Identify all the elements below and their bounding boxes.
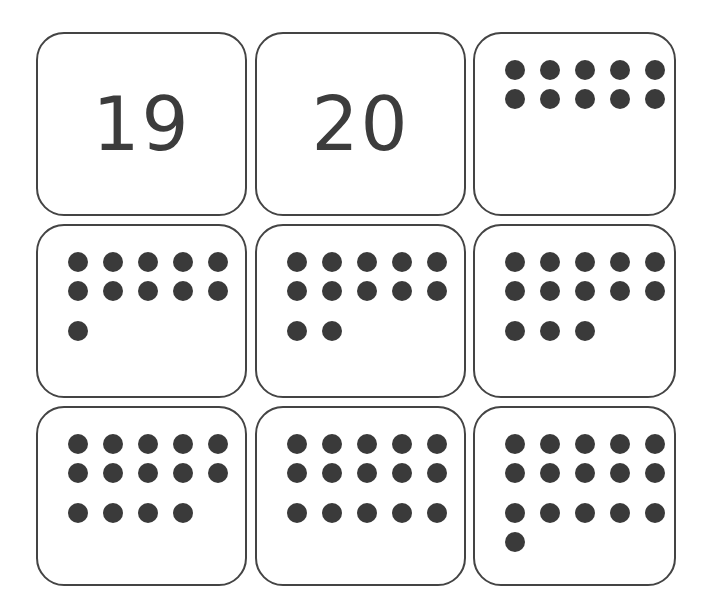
dot-row [505,281,664,301]
dot [392,281,412,301]
dot [173,281,193,301]
dot [103,463,123,483]
dot [138,281,158,301]
dot [103,434,123,454]
dot [287,463,307,483]
flashcard-dots-16[interactable] [473,406,676,586]
dot [540,281,560,301]
card-dot-array [287,252,454,350]
dot-row [505,89,664,109]
dot [540,463,560,483]
dot [287,434,307,454]
dot [575,60,595,80]
dot [287,281,307,301]
dot [208,434,228,454]
dot-row [287,434,454,454]
dot [68,503,88,523]
dot [322,503,342,523]
flashcard-dots-11[interactable] [36,224,247,398]
dot [173,434,193,454]
dot [287,321,307,341]
dot [540,60,560,80]
dot [427,463,447,483]
flashcard-dots-14[interactable] [36,406,247,586]
dot [357,463,377,483]
dot-row [68,434,235,454]
dot-row [68,281,235,301]
dot [540,252,560,272]
dot [575,252,595,272]
dot-row [287,281,454,301]
dot [645,503,665,523]
dot-row [68,321,235,341]
dot [103,503,123,523]
dot [103,252,123,272]
dot [287,503,307,523]
flashcard-dots-10[interactable] [473,32,676,216]
flashcard-19[interactable]: 19 [36,32,247,216]
card-dot-array [68,434,235,532]
dot [575,321,595,341]
dot [540,503,560,523]
dot [173,503,193,523]
dot [68,434,88,454]
flashcard-board: 19 20 [0,0,714,614]
card-dot-array [505,434,664,561]
dot [357,434,377,454]
dot [645,281,665,301]
card-numeral: 20 [257,87,464,161]
dot [68,463,88,483]
dot [575,434,595,454]
flashcard-20[interactable]: 20 [255,32,466,216]
dot [322,463,342,483]
dot [138,434,158,454]
dot [505,434,525,454]
dot [427,434,447,454]
dot [645,463,665,483]
dot [610,60,630,80]
dot [103,281,123,301]
dot [287,252,307,272]
dot [505,532,525,552]
dot [540,434,560,454]
dot [68,281,88,301]
dot [138,252,158,272]
card-dot-array [68,252,235,350]
flashcard-dots-12[interactable] [255,224,466,398]
dot-row [68,252,235,272]
dot [357,503,377,523]
dot [610,463,630,483]
dot [610,281,630,301]
flashcard-dots-15[interactable] [255,406,466,586]
dot [322,321,342,341]
dot [322,281,342,301]
dot [173,252,193,272]
dot [138,503,158,523]
dot [68,252,88,272]
flashcard-dots-13[interactable] [473,224,676,398]
dot [392,503,412,523]
dot [505,463,525,483]
card-dot-array [505,252,664,350]
dot [610,89,630,109]
dot [392,434,412,454]
dot [645,89,665,109]
dot [208,463,228,483]
dot-row [505,321,664,341]
dot-row [287,503,454,523]
dot [208,281,228,301]
dot [505,60,525,80]
dot [322,252,342,272]
dot-row [68,503,235,523]
dot-row [505,503,664,523]
dot [357,281,377,301]
dot-row [505,463,664,483]
dot [645,60,665,80]
dot [392,252,412,272]
dot [427,252,447,272]
dot [575,89,595,109]
dot [575,281,595,301]
dot [575,463,595,483]
dot-row [287,321,454,341]
dot [645,252,665,272]
